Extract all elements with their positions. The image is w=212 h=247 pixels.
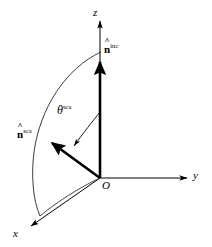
scattering-angle-superscript: sca bbox=[63, 103, 72, 110]
origin-label: O bbox=[102, 180, 110, 191]
x-axis-label: x bbox=[13, 228, 18, 239]
scattered-vector-arrow bbox=[52, 143, 100, 178]
hat-accent-icon: ^ bbox=[104, 37, 109, 46]
incident-vector-superscript: inc bbox=[110, 42, 118, 49]
scattering-geometry-figure: z y x O ^ninc ^nsca θsca bbox=[0, 0, 212, 247]
z-axis-label: z bbox=[93, 7, 97, 18]
x-axis-line bbox=[31, 178, 100, 226]
meridian-arc bbox=[33, 52, 101, 216]
scattered-vector-label: ^nsca bbox=[17, 128, 32, 140]
y-axis-label: y bbox=[193, 170, 198, 181]
n-hat-glyph-scattered: ^n bbox=[17, 129, 23, 140]
hat-accent-icon: ^ bbox=[17, 122, 22, 131]
scattering-angle-arc bbox=[74, 112, 100, 146]
n-hat-glyph-incident: ^n bbox=[104, 44, 110, 55]
incident-vector-label: ^ninc bbox=[104, 43, 118, 55]
scattering-angle-label: θsca bbox=[57, 104, 72, 116]
scattered-vector-superscript: sca bbox=[23, 127, 32, 134]
